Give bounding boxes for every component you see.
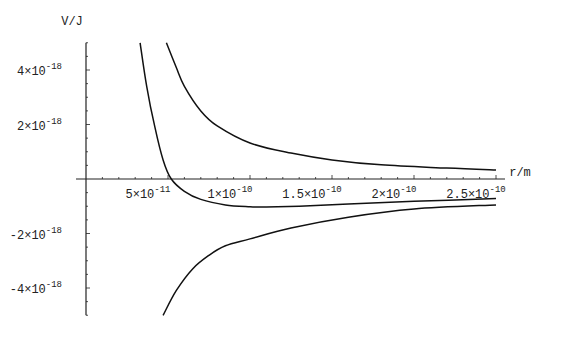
chart: 5×10-111×10-101.5×10-102×10-102.5×10-104…: [0, 0, 573, 337]
curve-repulsive: [166, 43, 496, 170]
x-tick-label: 2×10-10: [371, 185, 416, 202]
y-tick-label: 2×10-18: [17, 117, 62, 134]
x-tick-label: 1.5×10-10: [282, 185, 341, 202]
y-tick-label: -2×10-18: [10, 226, 62, 243]
y-axis-label: V/J: [61, 15, 83, 29]
x-tick-label: 1×10-10: [207, 185, 252, 202]
x-tick-label: 5×10-11: [125, 185, 170, 202]
x-axis-label: r/m: [509, 166, 531, 180]
x-tick-label: 2.5×10-10: [446, 185, 505, 202]
curve-attractive: [163, 205, 496, 315]
axes: [76, 43, 505, 316]
labels: 5×10-111×10-101.5×10-102×10-102.5×10-104…: [10, 15, 531, 297]
curve-total: [140, 43, 496, 207]
y-tick-label: -4×10-18: [10, 280, 62, 297]
y-tick-label: 4×10-18: [17, 62, 62, 79]
